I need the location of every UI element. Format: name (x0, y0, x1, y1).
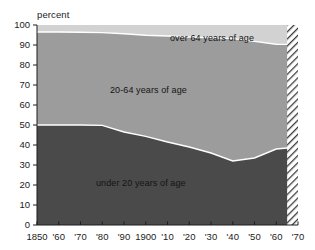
x-tick-label-10: '10 (161, 231, 173, 242)
y-tick-label: 30 (4, 160, 30, 170)
y-tick-label: 60 (4, 100, 30, 110)
age-distribution-area-chart: percent 1009080706050403020100 1850'60'7… (0, 0, 315, 250)
y-tick-20: 20 (0, 180, 30, 190)
x-tick-label-70: '70 (292, 231, 304, 242)
x-tick-label-30: '30 (205, 231, 217, 242)
y-tick-0: 0 (0, 220, 30, 230)
x-tick-label-60: '60 (270, 231, 282, 242)
band-label-over-64: over 64 years of age (170, 33, 254, 43)
y-tick-label: 0 (4, 220, 30, 230)
y-tick-label: 70 (4, 80, 30, 90)
y-tick-label: 50 (4, 120, 30, 130)
x-tick-label-20: '20 (183, 231, 195, 242)
y-tick-40: 40 (0, 140, 30, 150)
y-tick-90: 90 (0, 40, 30, 50)
band-label-under-20: under 20 years of age (96, 178, 186, 188)
projection-hatch-overlay (287, 25, 298, 225)
band-label-20-64: 20-64 years of age (110, 85, 187, 95)
x-tick-label-40: '40 (227, 231, 239, 242)
x-tick-label-1850: 1850 (26, 231, 47, 242)
x-tick-label-60: '60 (53, 231, 65, 242)
chart-plot-area (0, 0, 315, 250)
stacked-areas (37, 25, 298, 227)
y-tick-label: 80 (4, 60, 30, 70)
y-tick-10: 10 (0, 200, 30, 210)
y-tick-50: 50 (0, 120, 30, 130)
y-tick-label: 40 (4, 140, 30, 150)
x-tick-label-50: '50 (248, 231, 260, 242)
x-tick-label-90: '90 (118, 231, 130, 242)
y-tick-100: 100 (0, 20, 30, 30)
y-tick-label: 100 (4, 20, 30, 30)
y-tick-label: 20 (4, 180, 30, 190)
y-tick-label: 10 (4, 200, 30, 210)
x-tick-label-70: '70 (74, 231, 86, 242)
y-tick-30: 30 (0, 160, 30, 170)
y-tick-70: 70 (0, 80, 30, 90)
x-tick-label-1900: 1900 (135, 231, 156, 242)
x-tick-label-80: '80 (96, 231, 108, 242)
projection-hatched-region (287, 25, 298, 225)
y-tick-80: 80 (0, 60, 30, 70)
y-tick-60: 60 (0, 100, 30, 110)
y-tick-label: 90 (4, 40, 30, 50)
